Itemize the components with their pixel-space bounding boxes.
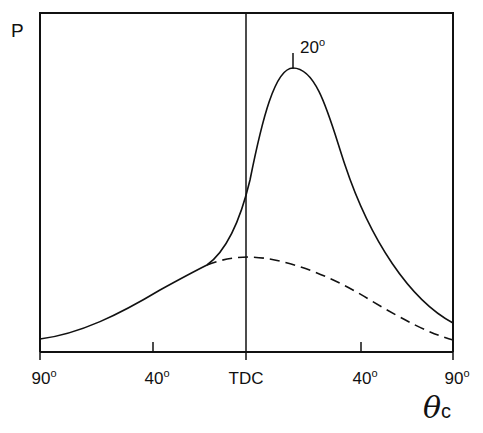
y-axis-label: P xyxy=(11,21,24,40)
peak-degree: o xyxy=(319,36,325,48)
x-axis-label: θc xyxy=(423,390,451,425)
tick-label-90-left: 90o xyxy=(31,370,56,387)
tick-label-90-right: 90o xyxy=(444,370,469,387)
tick-label-40-right: 40o xyxy=(352,370,377,387)
tick-label-tdc: TDC xyxy=(229,370,264,387)
peak-label: 20o xyxy=(300,39,325,56)
motoring-curve xyxy=(207,257,453,340)
peak-value: 20 xyxy=(300,38,319,57)
tick-label-40-left: 40o xyxy=(144,370,169,387)
